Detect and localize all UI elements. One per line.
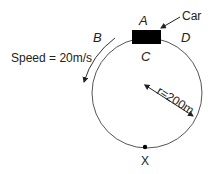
circular-track-diagram: A Car B D C Speed = 20m/s r=200m X (0, 0, 219, 174)
label-speed: Speed = 20m/s (11, 51, 92, 65)
label-c: C (141, 49, 151, 64)
car-pointer-arrow (161, 17, 180, 28)
car-block (132, 30, 161, 44)
label-d: D (181, 30, 190, 45)
label-radius: r=200m (154, 84, 196, 118)
label-a: A (138, 13, 148, 28)
label-x: X (141, 154, 149, 168)
label-b: B (93, 30, 102, 45)
point-x-dot (143, 145, 147, 149)
label-car: Car (182, 9, 201, 23)
